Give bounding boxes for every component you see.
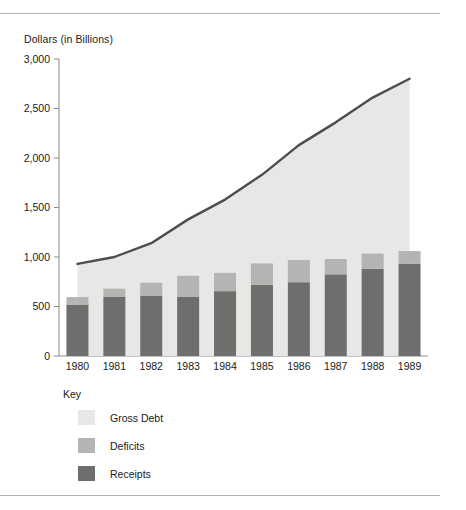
receipts-bar xyxy=(362,269,384,356)
y-tick-label: 0 xyxy=(44,350,50,362)
figure-container: Dollars (in Billions) 05001,0001,5002,00… xyxy=(0,0,466,510)
receipts-bar xyxy=(177,297,199,356)
x-tick-label: 1986 xyxy=(287,360,311,372)
x-tick-label: 1989 xyxy=(398,360,422,372)
chart-svg: 05001,0001,5002,0002,5003,000 1980198119… xyxy=(0,0,466,510)
deficits-bar xyxy=(362,254,384,269)
legend-label: Gross Debt xyxy=(110,412,163,424)
x-tick-label: 1987 xyxy=(324,360,348,372)
y-tick-label: 1,500 xyxy=(24,201,50,213)
x-tick-label: 1988 xyxy=(361,360,385,372)
receipts-bar xyxy=(288,282,310,356)
y-tick-label: 3,000 xyxy=(24,53,50,65)
deficits-bar xyxy=(66,297,88,304)
y-tick-label: 500 xyxy=(32,300,50,312)
receipts-bar xyxy=(399,264,421,356)
gross-debt-area-fill xyxy=(77,79,409,356)
x-tick-label-group: 1980198119821983198419851986198719881989 xyxy=(66,360,422,372)
y-tick-label: 2,000 xyxy=(24,152,50,164)
deficits-bar xyxy=(325,259,347,274)
gross-debt-area xyxy=(77,79,409,356)
deficits-bar xyxy=(177,276,199,297)
y-tick-label: 1,000 xyxy=(24,251,50,263)
x-tick-label: 1983 xyxy=(176,360,200,372)
receipts-bar xyxy=(325,274,347,356)
x-tick-label: 1981 xyxy=(103,360,127,372)
legend-swatch xyxy=(78,438,95,453)
deficits-bar xyxy=(288,260,310,282)
x-tick-label: 1982 xyxy=(140,360,164,372)
deficits-bar xyxy=(214,273,236,291)
x-axis-group: 1980198119821983198419851986198719881989 xyxy=(59,356,428,372)
legend-label: Deficits xyxy=(110,440,144,452)
legend-title: Key xyxy=(63,388,82,400)
receipts-bar xyxy=(66,305,88,356)
receipts-bar xyxy=(140,296,162,356)
x-tick-label: 1985 xyxy=(250,360,274,372)
receipts-bar xyxy=(103,297,125,356)
deficits-bar xyxy=(103,289,125,297)
legend-label: Receipts xyxy=(110,468,151,480)
receipts-bar xyxy=(251,285,273,356)
legend-items: Gross DebtDeficitsReceipts xyxy=(78,410,163,481)
y-tick-group: 05001,0001,5002,0002,5003,000 xyxy=(24,53,59,362)
deficits-bar xyxy=(140,283,162,296)
y-axis-group: 05001,0001,5002,0002,5003,000 xyxy=(24,53,59,362)
y-tick-label: 2,500 xyxy=(24,102,50,114)
legend: Key Gross DebtDeficitsReceipts xyxy=(63,388,163,481)
legend-swatch xyxy=(78,410,95,425)
deficits-bar xyxy=(251,263,273,284)
deficits-bar xyxy=(399,251,421,264)
receipts-bar xyxy=(214,291,236,356)
legend-swatch xyxy=(78,466,95,481)
x-tick-label: 1980 xyxy=(66,360,90,372)
x-tick-label: 1984 xyxy=(213,360,237,372)
